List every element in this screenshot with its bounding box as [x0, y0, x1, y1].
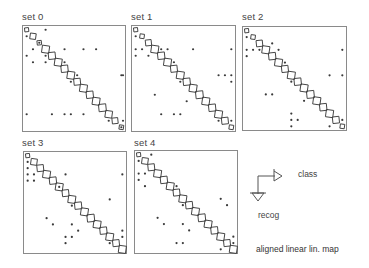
- off-diagonal-dot: [186, 100, 188, 102]
- diagonal-cell-box: [49, 177, 57, 185]
- diagonal-cell-box: [145, 40, 151, 46]
- off-diagonal-dot: [271, 93, 273, 95]
- off-diagonal-dot: [230, 48, 232, 50]
- off-diagonal-dot: [64, 242, 66, 244]
- diagonal-cell-box: [229, 125, 234, 130]
- off-diagonal-dot: [82, 113, 84, 115]
- off-diagonal-dot: [290, 125, 292, 127]
- diagonal-cell-box: [176, 71, 184, 79]
- off-diagonal-dot: [144, 185, 146, 187]
- diagonal-cell-box: [229, 245, 237, 253]
- confusion-matrix: [23, 151, 127, 254]
- off-diagonal-dot: [138, 179, 140, 181]
- off-diagonal-dot: [33, 180, 35, 182]
- off-diagonal-dot: [141, 48, 143, 50]
- diagonal-cell-box: [166, 182, 174, 190]
- confusion-matrix: [242, 26, 347, 131]
- off-diagonal-dot: [341, 74, 343, 76]
- panel-title: set 4: [134, 137, 156, 148]
- off-diagonal-dot: [71, 236, 73, 238]
- off-diagonal-dot: [328, 74, 330, 76]
- diagonal-cell-box: [106, 233, 114, 241]
- off-diagonal-dot: [224, 74, 226, 76]
- off-diagonal-dot: [144, 172, 146, 174]
- off-diagonal-dot: [246, 55, 248, 57]
- off-diagonal-dot: [188, 229, 190, 231]
- off-diagonal-dot: [232, 242, 234, 244]
- off-diagonal-dot: [121, 173, 123, 175]
- off-diagonal-dot: [277, 49, 279, 51]
- diagonal-cell-box: [112, 118, 118, 124]
- off-diagonal-dot: [192, 48, 194, 50]
- off-diagonal-dot: [232, 236, 234, 238]
- panel-title: set 1: [131, 11, 153, 22]
- diagonal-cell-box: [160, 176, 168, 184]
- off-diagonal-dot: [182, 204, 184, 206]
- off-diagonal-dot: [51, 113, 53, 115]
- off-diagonal-dot: [122, 120, 124, 122]
- diagonal-cell-box: [163, 58, 171, 66]
- diagonal-cell-box: [41, 45, 49, 53]
- class-arrowhead-icon: [274, 171, 282, 181]
- class-axis-label: class: [298, 169, 317, 179]
- diagonal-cell-box: [281, 65, 288, 72]
- off-diagonal-dot: [76, 74, 78, 76]
- diagonal-cell-box: [74, 78, 81, 85]
- off-diagonal-dot: [290, 119, 292, 121]
- off-diagonal-dot: [71, 223, 73, 225]
- off-diagonal-dot: [341, 49, 343, 51]
- diagonal-cell-box: [325, 109, 333, 117]
- off-diagonal-dot: [64, 173, 66, 175]
- figure-caption: aligned linear lin. map: [256, 244, 339, 254]
- off-diagonal-dot: [52, 223, 54, 225]
- diagonal-cell-box: [48, 52, 56, 60]
- diagonal-cell-box: [185, 201, 193, 209]
- diagonal-cell-box: [54, 58, 62, 66]
- diagonal-cell-box: [294, 78, 302, 86]
- diagonal-cell-box: [24, 28, 28, 32]
- off-diagonal-dot: [258, 49, 260, 51]
- diagonal-cell-box: [141, 157, 148, 164]
- off-diagonal-dot: [63, 61, 65, 63]
- off-diagonal-dot: [32, 61, 34, 63]
- diagonal-cell-box: [67, 71, 75, 79]
- diagonal-cell-box: [244, 28, 248, 32]
- diagonal-cell-box: [183, 78, 191, 86]
- off-diagonal-dot: [64, 236, 66, 238]
- diagonal-cell-box: [74, 202, 82, 210]
- diagonal-cell-box: [100, 227, 108, 235]
- off-diagonal-dot: [150, 154, 152, 156]
- off-diagonal-dot: [220, 198, 222, 200]
- off-diagonal-dot: [63, 48, 65, 50]
- diagonal-cell-box: [151, 45, 159, 53]
- off-diagonal-dot: [27, 180, 29, 182]
- off-diagonal-dot: [252, 49, 254, 51]
- diagonal-cell-box: [170, 65, 177, 72]
- diagonal-cell-box: [118, 245, 126, 253]
- diagonal-cell-box: [157, 52, 165, 60]
- off-diagonal-dot: [160, 48, 162, 50]
- diagonal-cell-box: [211, 227, 219, 235]
- diagonal-cell-box: [173, 189, 180, 196]
- diagonal-cell-box: [62, 190, 69, 197]
- off-diagonal-dot: [71, 205, 73, 207]
- diagonal-cell-box: [30, 33, 37, 40]
- off-diagonal-dot: [33, 173, 35, 175]
- off-diagonal-dot: [303, 100, 305, 102]
- confusion-matrix: [131, 25, 236, 132]
- panel-title: set 3: [22, 137, 44, 148]
- diagonal-cell-box: [86, 91, 94, 99]
- diagonal-cell-box: [140, 34, 145, 39]
- off-diagonal-dot: [328, 125, 330, 127]
- diagonal-cell-box: [61, 65, 69, 73]
- panel-title: set 0: [22, 11, 44, 22]
- diagonal-cell-box: [214, 110, 222, 118]
- diagonal-cell-box: [30, 158, 37, 165]
- off-diagonal-dot: [70, 113, 72, 115]
- diagonal-cell-box: [274, 58, 282, 66]
- off-diagonal-dot: [77, 230, 79, 232]
- panel-title: set 2: [242, 11, 264, 22]
- off-diagonal-dot: [138, 160, 140, 162]
- off-diagonal-dot: [182, 223, 184, 225]
- off-diagonal-dot: [175, 242, 177, 244]
